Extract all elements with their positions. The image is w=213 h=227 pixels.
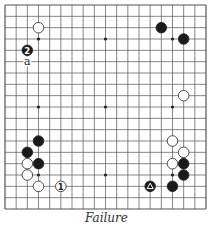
diagram-caption: Failure <box>0 210 213 226</box>
black-stone <box>22 147 33 158</box>
white-stone <box>167 136 178 147</box>
white-stone <box>33 22 44 33</box>
black-stone <box>178 34 189 45</box>
white-stone <box>178 90 189 101</box>
star-point <box>37 37 40 40</box>
white-stone <box>167 158 178 169</box>
white-stone <box>22 158 33 169</box>
board-letter: a <box>24 55 31 68</box>
white-stone <box>22 170 33 181</box>
star-point <box>37 173 40 176</box>
star-point <box>104 37 107 40</box>
star-point <box>171 105 174 108</box>
white-stone <box>178 147 189 158</box>
star-point <box>104 105 107 108</box>
black-stone <box>33 158 44 169</box>
go-board: a21 <box>0 0 213 212</box>
white-stone <box>33 181 44 192</box>
black-stone <box>178 158 189 169</box>
star-point <box>171 37 174 40</box>
star-point <box>37 105 40 108</box>
move-number: 1 <box>58 182 64 192</box>
black-stone <box>33 136 44 147</box>
black-stone <box>178 170 189 181</box>
black-stone <box>156 22 167 33</box>
move-number: 2 <box>24 46 30 56</box>
star-point <box>104 173 107 176</box>
black-stone <box>167 181 178 192</box>
star-point <box>171 173 174 176</box>
